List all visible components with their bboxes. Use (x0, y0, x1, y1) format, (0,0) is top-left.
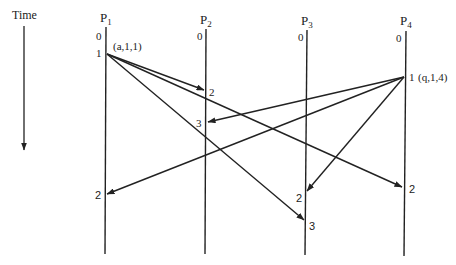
event-label-p1-2: 2 (95, 189, 101, 201)
event-label-p4-0: 0 (396, 32, 402, 44)
process-line-p4 (404, 31, 406, 256)
message-arrow-p1-to-p2 (107, 54, 204, 90)
process-line-p1 (105, 27, 106, 254)
time-axis: Time (12, 8, 37, 150)
event-label-p2-3: 3 (196, 117, 202, 129)
process-label-p2: P2 (200, 12, 212, 29)
message-annotation-p1: (a,1,1) (113, 40, 142, 53)
message-arrow-p4-to-p3 (307, 77, 404, 191)
process-label-p3: P3 (301, 13, 313, 30)
message-arrows (107, 54, 404, 220)
event-label-p4-1: 1 (409, 71, 415, 83)
event-label-p3-0: 0 (298, 31, 304, 43)
event-label-p2-2: 2 (209, 86, 215, 98)
event-label-p1-1: 1 (96, 47, 102, 59)
process-label-p1: P1 (100, 10, 112, 27)
event-label-p3-3: 3 (309, 220, 315, 232)
space-time-diagram: Time P1 P2 P3 P4 0 1 2 0 2 3 0 2 3 0 1 2… (0, 0, 456, 265)
process-label-p4: P4 (400, 13, 412, 30)
process-line-p3 (305, 30, 307, 255)
event-label-p2-0: 0 (197, 30, 203, 42)
event-label-p1-0: 0 (96, 30, 102, 42)
process-lines (105, 27, 406, 256)
event-labels: 0 1 2 0 2 3 0 2 3 0 1 2 (95, 30, 415, 232)
process-labels: P1 P2 P3 P4 (100, 10, 412, 30)
message-annotation-p4: (q,1,4) (418, 71, 448, 84)
event-label-p3-2: 2 (296, 192, 302, 204)
message-arrow-p1-to-p4 (107, 54, 402, 187)
message-arrow-p4-to-p1 (107, 77, 404, 194)
process-line-p2 (205, 29, 206, 254)
event-label-p4-2: 2 (409, 183, 415, 195)
time-label: Time (12, 8, 37, 22)
